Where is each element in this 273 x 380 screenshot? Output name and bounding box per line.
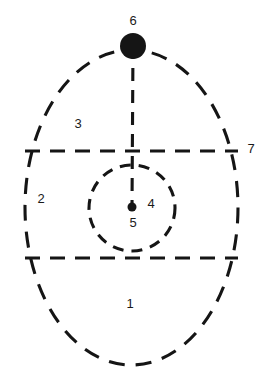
center-dot: [128, 203, 137, 212]
region-label-7: 7: [247, 141, 254, 156]
region-label-5: 5: [129, 215, 136, 230]
diagram-root: 1 2 3 4 5 6 7: [0, 0, 273, 380]
top-marker-dot: [120, 33, 146, 59]
diagram-canvas: 1 2 3 4 5 6 7: [0, 0, 273, 380]
vertical-axis-line: [132, 46, 133, 207]
region-label-2: 2: [37, 191, 44, 206]
region-label-6: 6: [129, 13, 136, 28]
region-label-4: 4: [147, 196, 154, 211]
region-label-1: 1: [126, 296, 133, 311]
region-label-3: 3: [74, 116, 81, 131]
